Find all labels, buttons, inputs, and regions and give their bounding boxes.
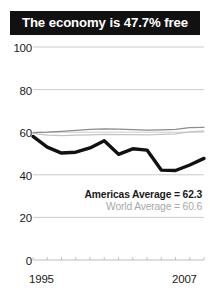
series-line-group: [33, 127, 204, 170]
y-axis-label-0: 0: [2, 256, 32, 268]
plot-svg: [0, 38, 210, 270]
plot-area: [0, 38, 210, 270]
legend-americas-average: Americas Average = 62.3: [85, 189, 202, 201]
y-axis-label-40: 40: [2, 171, 32, 183]
series-line-americas-average: [33, 127, 204, 132]
y-axis-label-20: 20: [2, 213, 32, 225]
xtick-group: [33, 257, 204, 260]
y-axis-label-80: 80: [2, 86, 32, 98]
chart-title-bar: The economy is 47.7% free: [10, 11, 200, 35]
y-axis-label-100: 100: [2, 43, 32, 55]
series-line-country-economic-freedom: [33, 136, 204, 170]
legend-world-average: World Average = 60.6: [106, 201, 202, 213]
x-axis-label-end: 2007: [172, 274, 197, 286]
x-axis-label-start: 1995: [29, 274, 54, 286]
economic-freedom-chart: The economy is 47.7% free 100 80 60 40 2…: [0, 0, 210, 307]
page-title: The economy is 47.7% free: [22, 16, 188, 29]
y-axis-label-60: 60: [2, 128, 32, 140]
